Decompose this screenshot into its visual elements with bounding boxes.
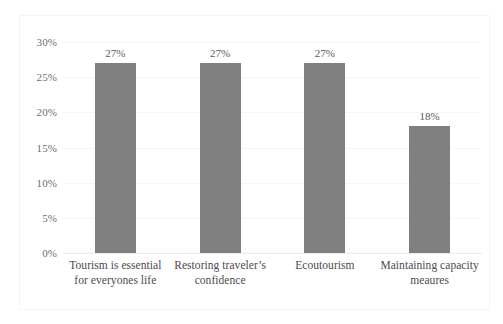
category-label-line: Maintaining capacity xyxy=(377,258,482,273)
bars-layer: 27%27%27%18% xyxy=(63,42,482,253)
category-label-line: Restoring traveler’s xyxy=(168,258,273,273)
bar-value-label: 27% xyxy=(85,47,145,59)
bar[interactable] xyxy=(304,63,345,253)
bar[interactable] xyxy=(409,126,450,253)
category-label-line: for everyones life xyxy=(63,273,168,288)
y-tick-label: 10% xyxy=(13,177,57,189)
category-label: Restoring traveler’sconfidence xyxy=(168,258,273,287)
category-label: Ecoutourism xyxy=(273,258,378,273)
bar-value-label: 18% xyxy=(400,110,460,122)
gridline-0 xyxy=(63,253,482,254)
category-label: Maintaining capacitymeaures xyxy=(377,258,482,287)
chart-page: · · · · 0%5%10%15%20%25%30% 27%27%27%18%… xyxy=(0,0,503,324)
y-tick-label: 15% xyxy=(13,142,57,154)
category-label-line: Tourism is essential xyxy=(63,258,168,273)
bar[interactable] xyxy=(95,63,136,253)
y-tick-label: 25% xyxy=(13,71,57,83)
bar-value-label: 27% xyxy=(295,47,355,59)
bar[interactable] xyxy=(200,63,241,253)
category-axis: Tourism is essentialfor everyones lifeRe… xyxy=(63,258,482,308)
y-axis: 0%5%10%15%20%25%30% xyxy=(12,42,57,253)
category-label-line: confidence xyxy=(168,273,273,288)
category-label-line: meaures xyxy=(377,273,482,288)
y-tick-label: 30% xyxy=(13,36,57,48)
y-tick-label: 5% xyxy=(13,212,57,224)
y-tick-label: 0% xyxy=(13,247,57,259)
y-tick-label: 20% xyxy=(13,106,57,118)
clipped-text-artifact: · · · · xyxy=(60,0,360,6)
bar-value-label: 27% xyxy=(190,47,250,59)
category-label: Tourism is essentialfor everyones life xyxy=(63,258,168,287)
